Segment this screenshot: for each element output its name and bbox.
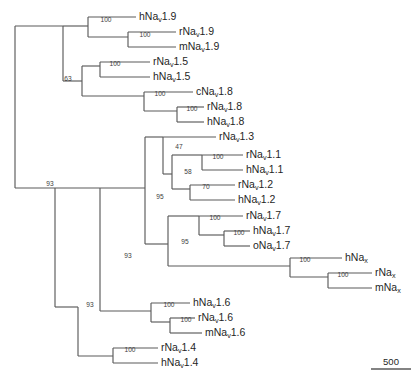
tip-label-hNav1.2: hNav1.2 [238,193,276,208]
tip-label-rNav1.3: rNav1.3 [219,130,254,145]
support-value-root-node: 93 [46,180,54,187]
tip-label-rNav1.5: rNav1.5 [153,55,188,70]
scale-bar: 500 [371,356,411,369]
support-value-rNav1.8-hNav1.8: 100 [186,105,197,112]
tip-label-hNav1.1: hNav1.1 [246,163,284,178]
tip-label-rNav1.6: rNav1.6 [198,311,233,326]
tip-label-rNav1.1: rNav1.1 [246,148,281,163]
support-value-Nav1.6-plus-ancestor: 93 [86,301,94,308]
support-value-Nav1.1-Nav1.2-ancestor: 58 [184,168,192,175]
tree-canvas: 1001001006310010047100587095100100951001… [0,0,419,384]
support-value-hNav1.7-oNav1.7: 100 [233,229,244,236]
support-value-Nav1.6-clade: 100 [163,301,174,308]
tip-label-rNav1.7: rNav1.7 [246,209,281,224]
tip-label-hNav1.7: hNav1.7 [253,224,291,239]
support-value-Nav1.5-Nav1.8-ancestor: 63 [64,75,72,82]
tip-label-oNav1.7: oNav1.7 [253,239,291,254]
tip-label-hNav1.9: hNav1.9 [139,10,177,25]
tip-label-hNav1.4: hNav1.4 [161,356,199,371]
branch-layer [15,17,372,363]
tip-label-mNav1.6: mNav1.6 [205,326,246,341]
support-value-Nav1.2-clade: 70 [202,183,210,190]
tip-label-cNav1.8: cNav1.8 [196,85,233,100]
support-value-Nav1.3-1.1-1.2-1.7-Nax: 95 [156,193,164,200]
scale-bar-label: 500 [383,356,399,367]
support-value-upper-major-clade: 93 [124,252,132,259]
tip-label-rNav1.4: rNav1.4 [161,341,196,356]
support-value-rNav1.6-mNav1.6: 100 [180,316,191,323]
tip-label-mNav1.9: mNav1.9 [179,40,220,55]
tip-label-rNax: rNax [375,266,396,281]
support-value-Nav1.9-clade: 100 [100,16,111,23]
support-value-Nav1.3-Nav1.1-Nav1.2: 47 [175,143,183,150]
support-value-Nav1.7-clade: 100 [209,214,220,221]
tip-label-rNav1.9: rNav1.9 [179,25,214,40]
tip-label-rNav1.2: rNav1.2 [238,178,273,193]
tip-label-rNav1.8: rNav1.8 [207,100,242,115]
support-value-Nav1.8-clade: 100 [154,90,165,97]
support-value-Nax-clade: 100 [299,256,310,263]
support-value-Nav1.5-clade: 100 [109,60,120,67]
support-value-rNax-mNax: 100 [337,271,348,278]
support-value-Nav1.4-clade: 100 [124,346,135,353]
tip-label-hNav1.5: hNav1.5 [153,70,191,85]
tip-label-mNax: mNax [375,281,401,296]
tip-label-hNav1.8: hNav1.8 [207,115,245,130]
tip-label-hNax: hNax [345,251,368,266]
support-value-Nav1.1-clade: 100 [212,153,223,160]
support-value-rNav1.9-mNav1.9: 100 [139,31,150,38]
support-value-Nav1.7-clade-ancestor: 95 [181,238,189,245]
tip-label-layer: hNav1.9rNav1.9mNav1.9rNav1.5hNav1.5cNav1… [139,10,401,371]
phylogenetic-tree-figure: 1001001006310010047100587095100100951001… [0,0,419,384]
tip-label-hNav1.6: hNav1.6 [193,296,231,311]
